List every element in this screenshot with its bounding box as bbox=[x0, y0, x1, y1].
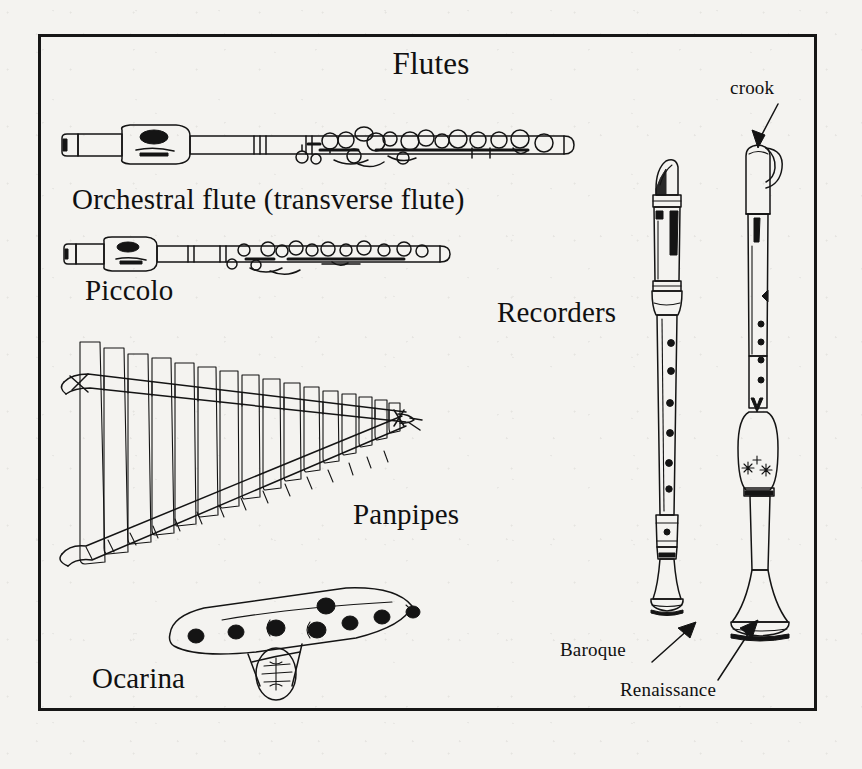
label-crook: crook bbox=[730, 78, 774, 97]
page-title: Flutes bbox=[0, 48, 862, 79]
orchestral-flute-illustration bbox=[58, 112, 598, 174]
label-piccolo: Piccolo bbox=[85, 276, 173, 305]
title-text: Flutes bbox=[393, 46, 470, 81]
label-baroque: Baroque bbox=[560, 640, 626, 659]
baroque-arrow bbox=[646, 620, 702, 666]
renaissance-recorder-illustration bbox=[726, 118, 796, 648]
label-recorders: Recorders bbox=[497, 298, 616, 327]
piccolo-illustration bbox=[60, 228, 470, 280]
ocarina-illustration bbox=[160, 578, 430, 688]
label-ocarina: Ocarina bbox=[92, 664, 185, 693]
label-panpipes: Panpipes bbox=[353, 500, 459, 529]
label-orchestral-flute: Orchestral flute (transverse flute) bbox=[72, 185, 465, 214]
label-renaissance: Renaissance bbox=[620, 680, 716, 699]
baroque-recorder-illustration bbox=[636, 155, 696, 635]
panpipes-illustration bbox=[58, 330, 408, 592]
crook-arrow bbox=[742, 100, 792, 152]
plate-page: Flutes bbox=[0, 0, 862, 769]
renaissance-arrow bbox=[712, 618, 768, 684]
